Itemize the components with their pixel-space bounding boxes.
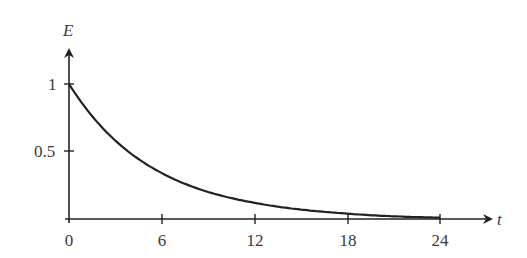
x-tick-label-6: 6 (158, 231, 167, 250)
x-tick-label-24: 24 (432, 231, 450, 250)
x-tick-label-12: 12 (247, 231, 264, 250)
y-tick-label-1: 1 (48, 75, 57, 94)
x-tick-label-18: 18 (340, 231, 357, 250)
y-tick-label-0.5: 0.5 (34, 142, 55, 161)
x-axis-label: t (497, 210, 503, 229)
decay-curve (69, 84, 440, 218)
x-tick-label-0: 0 (65, 231, 74, 250)
chart: E t 1 0.5 0 6 12 18 24 (0, 0, 527, 258)
y-axis-label: E (62, 21, 74, 40)
